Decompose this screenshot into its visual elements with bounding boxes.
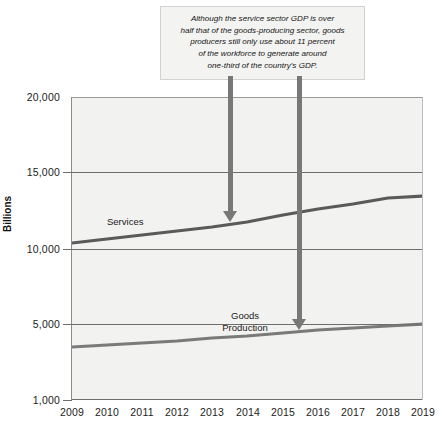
y-tick-10000 [63, 249, 72, 250]
gridline-1000 [72, 399, 422, 400]
gridline-15000 [72, 172, 422, 173]
y-tick-1000 [63, 400, 72, 401]
plot-area [72, 97, 423, 400]
y-tick-label-5000: 5,000 [0, 318, 60, 330]
annotation-line-2: half that of the goods-producing sector,… [167, 25, 358, 37]
annotation-line-1: Although the service sector GDP is over [167, 13, 358, 25]
y-tick-label-1000: 1,000 [0, 394, 60, 406]
y-tick-label-20000: 20,000 [0, 91, 60, 103]
y-tick-label-10000: 10,000 [0, 243, 60, 255]
series-label-goods-production: Goods Production [206, 310, 284, 333]
x-tick-label-2010: 2010 [90, 406, 124, 418]
series-label-goods-line1: Goods [206, 310, 284, 322]
annotation-line-5: one-third of the country's GDP. [167, 60, 358, 72]
x-tick-label-2018: 2018 [371, 406, 405, 418]
x-tick-label-2014: 2014 [231, 406, 265, 418]
series-label-goods-line2: Production [206, 322, 284, 334]
annotation-arrow-services-shaft [228, 76, 233, 213]
x-tick-label-2015: 2015 [266, 406, 300, 418]
y-tick-label-15000: 15,000 [0, 166, 60, 178]
x-tick-label-2016: 2016 [301, 406, 335, 418]
y-tick-5000 [63, 324, 72, 325]
x-tick-label-2019: 2019 [406, 406, 440, 418]
x-tick-label-2017: 2017 [336, 406, 370, 418]
gridline-10000 [72, 249, 422, 250]
annotation-arrow-goods-head [292, 319, 306, 330]
y-tick-15000 [63, 172, 72, 173]
annotation-callout: Although the service sector GDP is over … [160, 6, 365, 80]
x-tick-label-2012: 2012 [160, 406, 194, 418]
gridline-20000 [72, 97, 422, 98]
annotation-arrow-services-head [223, 211, 237, 222]
annotation-line-3: producers still only use about 11 percen… [167, 36, 358, 48]
y-axis-title: Billions [2, 196, 13, 232]
annotation-arrow-goods-shaft [297, 76, 302, 321]
plot-inner [72, 97, 422, 400]
x-tick-label-2013: 2013 [195, 406, 229, 418]
annotation-line-4: of the workforce to generate around [167, 48, 358, 60]
x-tick-label-2009: 2009 [55, 406, 89, 418]
series-label-services: Services [107, 216, 143, 227]
chart-figure: Although the service sector GDP is over … [0, 0, 444, 428]
x-tick-label-2011: 2011 [125, 406, 159, 418]
